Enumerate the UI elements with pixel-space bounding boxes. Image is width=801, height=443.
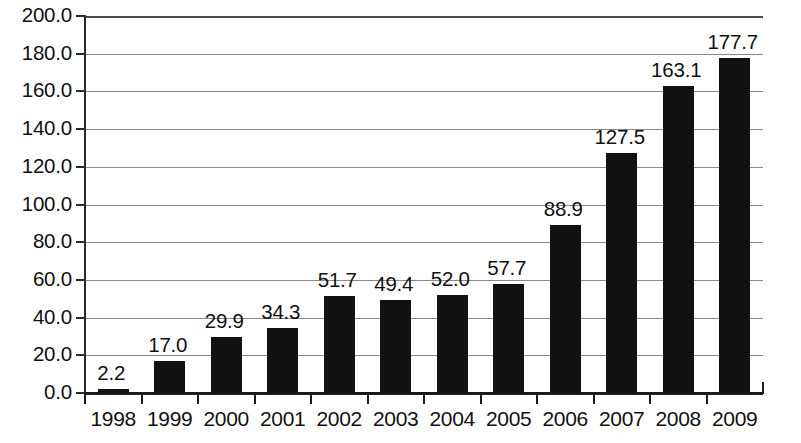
- x-axis-tick: [141, 393, 143, 404]
- bar-value-label: 2.2: [76, 363, 146, 384]
- x-axis-tick-label: 2005: [481, 408, 538, 429]
- x-axis-tick-label: 2002: [311, 408, 368, 429]
- bar: [267, 328, 298, 393]
- bar: [663, 86, 694, 393]
- y-axis-tick: [76, 317, 86, 319]
- x-axis-tick: [254, 393, 256, 404]
- x-axis-tick: [706, 393, 708, 404]
- x-axis-tick-label: 2000: [198, 408, 255, 429]
- bar: [154, 361, 185, 393]
- gridline: [85, 205, 763, 206]
- x-axis-tick-label: 2004: [424, 408, 481, 429]
- bar-value-label: 88.9: [528, 199, 598, 220]
- gridline: [85, 242, 763, 243]
- bar: [380, 300, 411, 393]
- bar: [437, 295, 468, 393]
- x-axis-tick-label: 2009: [707, 408, 764, 429]
- y-axis-tick: [76, 166, 86, 168]
- x-axis-tick-label: 2008: [650, 408, 707, 429]
- y-axis-tick-label: 100.0: [22, 194, 72, 215]
- x-axis-tick-label: 1999: [142, 408, 199, 429]
- y-axis-tick-label: 200.0: [22, 5, 72, 26]
- x-axis-tick-label: 2006: [537, 408, 594, 429]
- bar-value-label: 177.7: [698, 32, 768, 53]
- bar: [719, 58, 750, 393]
- x-axis-tick: [367, 393, 369, 404]
- y-axis-tick-label: 20.0: [33, 344, 72, 365]
- bar-value-label: 127.5: [585, 127, 655, 148]
- y-axis-tick: [76, 279, 86, 281]
- bar-value-label: 163.1: [641, 60, 711, 81]
- bar-value-label: 17.0: [133, 335, 203, 356]
- x-axis-tick: [84, 393, 86, 404]
- y-axis-tick: [76, 241, 86, 243]
- y-axis-tick-label: 60.0: [33, 269, 72, 290]
- x-axis-tick: [536, 393, 538, 404]
- x-axis-tick: [197, 393, 199, 404]
- y-axis-tick: [76, 15, 86, 17]
- bar: [550, 225, 581, 393]
- y-axis-tick-label: 160.0: [22, 80, 72, 101]
- x-axis-tick-label: 2007: [594, 408, 651, 429]
- bar-value-label: 34.3: [246, 302, 316, 323]
- bar: [98, 389, 129, 393]
- y-axis-tick: [76, 204, 86, 206]
- bar-chart: 200.0180.0160.0140.0120.0100.080.060.040…: [0, 0, 801, 443]
- y-axis-tick: [76, 128, 86, 130]
- x-axis-tick-label: 2003: [368, 408, 425, 429]
- x-axis-tick: [480, 393, 482, 404]
- y-axis-tick: [76, 354, 86, 356]
- x-axis-tick: [649, 393, 651, 404]
- bar: [606, 153, 637, 393]
- bar: [324, 296, 355, 393]
- x-axis-tick: [593, 393, 595, 404]
- y-axis-tick-label: 40.0: [33, 307, 72, 328]
- y-axis-tick-label: 80.0: [33, 231, 72, 252]
- y-axis-tick: [76, 53, 86, 55]
- x-axis-tick-label: 2001: [255, 408, 312, 429]
- bar: [493, 284, 524, 393]
- gridline: [85, 318, 763, 319]
- x-axis-tick: [310, 393, 312, 404]
- y-axis-tick-label: 140.0: [22, 118, 72, 139]
- gridline: [85, 129, 763, 130]
- bar-value-label: 57.7: [472, 258, 542, 279]
- y-axis-tick-label: 180.0: [22, 43, 72, 64]
- y-axis-tick-label: 0.0: [44, 382, 72, 403]
- gridline: [85, 91, 763, 92]
- x-axis-tick: [423, 393, 425, 404]
- y-axis-tick-label: 120.0: [22, 156, 72, 177]
- x-axis-tick-label: 1998: [85, 408, 142, 429]
- bar: [211, 337, 242, 393]
- gridline: [85, 167, 763, 168]
- gridline: [85, 16, 763, 18]
- x-axis-right-cap: [762, 382, 764, 394]
- gridline: [85, 54, 763, 55]
- y-axis-tick: [76, 90, 86, 92]
